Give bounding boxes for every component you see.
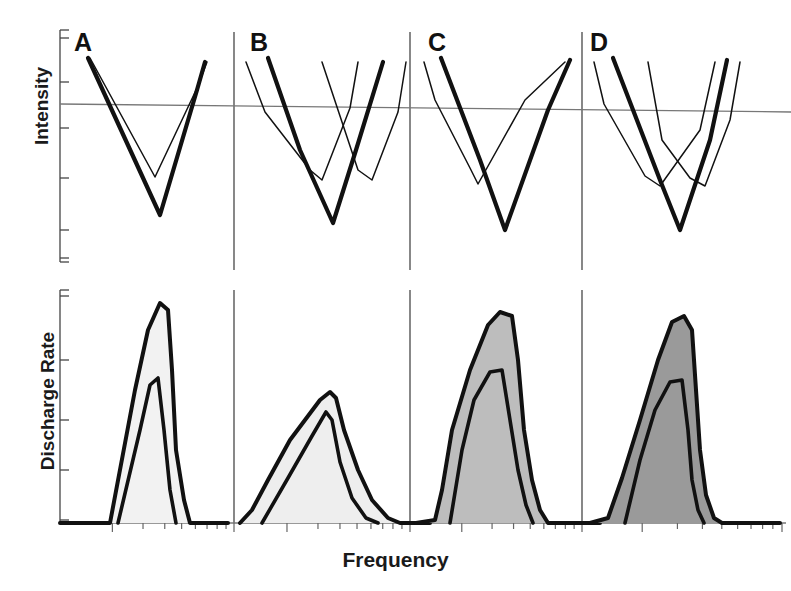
figure-container: Intensity Discharge Rate Frequency ABCD (0, 0, 791, 591)
panel-letter-c: C (428, 28, 446, 57)
intensity-reference-line (60, 104, 791, 112)
plot-canvas (0, 0, 791, 591)
discharge-area-fill-b (240, 392, 430, 523)
tuning-curve-a (88, 58, 205, 215)
panel-letter-b: B (250, 28, 268, 57)
tuning-curve-b (268, 58, 383, 223)
panel-letter-a: A (74, 28, 92, 57)
tuning-curve-c (441, 58, 570, 230)
panel-letter-d: D (590, 28, 608, 57)
tuning-curve-d (648, 62, 740, 186)
